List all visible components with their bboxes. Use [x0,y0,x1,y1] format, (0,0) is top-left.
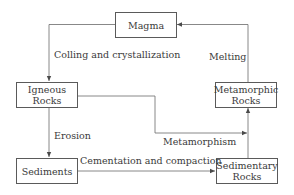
node-magma-label: Magma [128,20,164,31]
node-sedimentary-label-2: Rocks [233,171,262,182]
node-metamorphic-label-1: Metamorphic [214,84,279,95]
node-sediments-label: Sediments [22,166,73,177]
node-igneous-label-1: Igneous [28,84,66,95]
node-sedimentary-rocks: Sedimentary Rocks [216,158,278,184]
node-igneous-label-2: Rocks [33,95,62,106]
edge-label-erosion: Erosion [54,130,91,141]
edge-label-cooling: Colling and crystallization [54,49,180,60]
node-metamorphic-rocks: Metamorphic Rocks [215,82,277,108]
node-igneous-rocks: Igneous Rocks [16,82,78,108]
edge-label-cementation: Cementation and compaction [80,155,222,166]
edge-label-metamorphism: Metamorphism [163,136,236,147]
node-sediments: Sediments [16,158,78,184]
node-magma: Magma [115,12,177,38]
edge-label-melting: Melting [209,51,246,62]
node-sedimentary-label-1: Sedimentary [216,160,277,171]
node-metamorphic-label-2: Rocks [232,95,261,106]
